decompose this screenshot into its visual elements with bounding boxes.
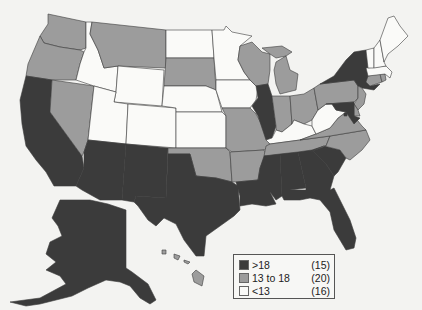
state-DC <box>344 113 347 116</box>
legend-swatch-high <box>239 260 249 270</box>
state-WY <box>114 66 164 106</box>
state-NM <box>122 144 168 202</box>
state-FL <box>290 188 356 250</box>
state-ME <box>380 16 408 62</box>
legend-count: (16) <box>306 285 330 297</box>
legend-label: 13 to 18 <box>252 272 306 284</box>
state-CO <box>126 104 176 148</box>
state-ND <box>166 30 214 58</box>
state-AK <box>10 200 156 306</box>
state-KS <box>176 112 226 148</box>
legend-swatch-low <box>239 286 249 296</box>
legend-label: <13 <box>252 285 306 297</box>
state-IA <box>216 80 258 108</box>
legend-item-low: <13 (16) <box>239 284 330 297</box>
state-SD <box>164 58 216 90</box>
legend: >18 (15) 13 to 18 (20) <13 (16) <box>233 254 335 299</box>
legend-swatch-mid <box>239 273 249 283</box>
legend-count: (15) <box>306 259 330 271</box>
legend-count: (20) <box>306 272 330 284</box>
us-choropleth-map <box>0 0 422 310</box>
legend-item-high: >18 (15) <box>239 258 330 271</box>
legend-label: >18 <box>252 259 306 271</box>
legend-item-mid: 13 to 18 (20) <box>239 271 330 284</box>
state-MT <box>90 22 166 68</box>
